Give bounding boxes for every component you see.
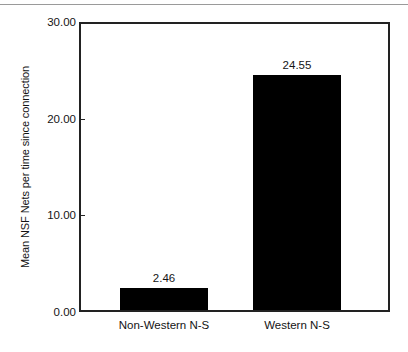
- y-axis-tick-mark: [79, 215, 85, 216]
- bar: [253, 75, 341, 310]
- bar-chart-figure: Mean NSF Nets per time since connection …: [0, 0, 408, 352]
- bar-value-label: 24.55: [253, 59, 341, 71]
- plot-area: [79, 22, 390, 312]
- x-axis-category-label: Western N-S: [213, 319, 381, 331]
- y-axis-tick-label: 0.00: [54, 305, 76, 319]
- bar: [120, 288, 208, 310]
- y-axis-tick-labels: 0.0010.0020.0030.00: [0, 22, 76, 312]
- y-axis-tick-label: 20.00: [47, 112, 76, 126]
- bar-value-label: 2.46: [120, 272, 208, 284]
- y-axis-tick-mark: [79, 119, 85, 120]
- y-axis-tick-label: 10.00: [47, 208, 76, 222]
- y-axis-tick-label: 30.00: [47, 15, 76, 29]
